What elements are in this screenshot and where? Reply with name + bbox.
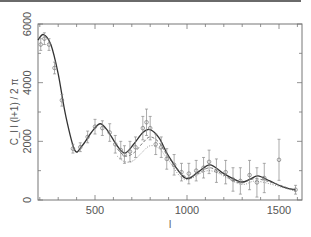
- x-tick-label: 1500: [267, 204, 291, 216]
- plot-frame: [38, 24, 302, 200]
- axis-ticks: [38, 24, 302, 200]
- y-tick-label: 6000: [21, 12, 33, 36]
- x-axis-label: l: [169, 219, 171, 230]
- x-tick-label: 500: [86, 204, 104, 216]
- power-spectrum-chart: 500100015000200040006000lC_l l (l+1) / 2…: [0, 0, 311, 237]
- y-axis-label: C_l l (l+1) / 2 π: [9, 79, 20, 146]
- y-tick-label: 4000: [21, 70, 33, 94]
- y-tick-label: 0: [21, 197, 33, 203]
- plot-border: [38, 24, 302, 200]
- model-curve-dashed: [117, 137, 295, 191]
- x-tick-label: 1000: [175, 204, 199, 216]
- plot-series: [38, 33, 297, 197]
- y-tick-label: 2000: [21, 129, 33, 153]
